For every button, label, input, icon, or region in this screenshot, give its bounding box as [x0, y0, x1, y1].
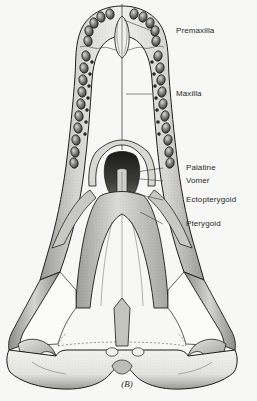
nutrient-foramen: [87, 97, 90, 100]
nutrient-foramen: [154, 85, 157, 88]
nutrient-foramen: [156, 109, 159, 112]
label-palatine: Palatine: [186, 163, 216, 172]
figure-container: PremaxillaMaxillaPalatineVomerEctopteryg…: [0, 0, 257, 401]
nutrient-foramen: [88, 85, 91, 88]
nutrient-foramen: [151, 61, 154, 64]
nutrient-foramen: [158, 133, 161, 136]
label-premaxilla: Premaxilla: [176, 26, 215, 35]
basioccipital-keel: [114, 298, 130, 346]
skull-illustration: PremaxillaMaxillaPalatineVomerEctopteryg…: [0, 0, 257, 401]
nutrient-foramen: [85, 121, 88, 124]
nutrient-foramen: [86, 109, 89, 112]
label-ectopterygoid: Ectopterygoid: [186, 195, 236, 204]
label-pterygoid: Pterygoid: [186, 219, 221, 228]
label-vomer: Vomer: [186, 176, 210, 185]
nutrient-foramen: [84, 133, 87, 136]
nutrient-foramen: [153, 73, 156, 76]
label-maxilla: Maxilla: [176, 89, 202, 98]
nutrient-foramen: [89, 73, 92, 76]
nutrient-foramen: [155, 97, 158, 100]
figure-caption: (B): [121, 379, 133, 389]
nutrient-foramen: [157, 121, 160, 124]
palatal-foramen-right: [132, 348, 144, 356]
nutrient-foramen: [91, 61, 94, 64]
palatal-foramen-left: [106, 348, 118, 356]
